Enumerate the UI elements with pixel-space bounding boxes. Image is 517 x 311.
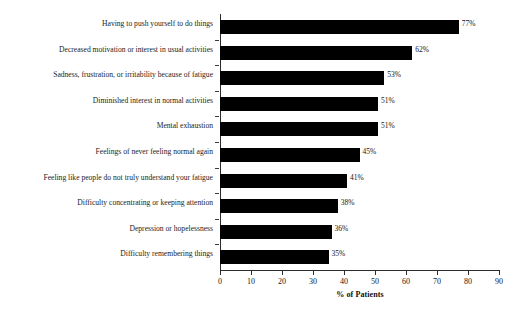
horizontal-bar-chart: Having to push yourself to do thingsDecr… xyxy=(0,0,517,311)
bar-row: 51% xyxy=(220,116,500,142)
bar-row: 45% xyxy=(220,142,500,168)
bar xyxy=(220,46,412,60)
bar-value-label: 51% xyxy=(381,121,395,131)
bar-row: 41% xyxy=(220,168,500,194)
category-label: Decreased motivation or interest in usua… xyxy=(0,45,213,55)
bar-row: 53% xyxy=(220,65,500,91)
value-axis-tick xyxy=(499,271,500,275)
category-axis-tick xyxy=(215,91,219,92)
bar xyxy=(220,225,332,239)
value-axis-tick xyxy=(406,271,407,275)
category-axis-tick xyxy=(215,168,219,169)
category-label: Feelings of never feeling normal again xyxy=(0,147,213,157)
category-label: Difficulty concentrating or keeping atte… xyxy=(0,198,213,208)
value-axis-tick xyxy=(313,271,314,275)
plot-area: 77%62%53%51%51%45%41%38%36%35% xyxy=(220,14,500,270)
bar xyxy=(220,122,378,136)
category-axis-labels: Having to push yourself to do thingsDecr… xyxy=(0,14,217,270)
category-label: Difficulty remembering things xyxy=(0,249,213,259)
category-label: Feeling like people do not truly underst… xyxy=(0,173,213,183)
bar xyxy=(220,97,378,111)
value-axis-tick-label: 10 xyxy=(239,276,263,287)
category-label: Depression or hopelessness xyxy=(0,224,213,234)
bar-value-label: 38% xyxy=(341,198,355,208)
category-axis-tick xyxy=(215,65,219,66)
bar-row: 51% xyxy=(220,91,500,117)
category-axis-tick xyxy=(215,193,219,194)
bar-row: 62% xyxy=(220,40,500,66)
category-axis-tick xyxy=(215,219,219,220)
value-axis-tick-label: 30 xyxy=(301,276,325,287)
value-axis-title: % of Patients xyxy=(220,290,500,299)
value-axis-tick xyxy=(251,271,252,275)
value-axis-tick-label: 80 xyxy=(456,276,480,287)
bar-value-label: 77% xyxy=(462,19,476,29)
bar-row: 35% xyxy=(220,244,500,270)
bar xyxy=(220,20,459,34)
bar xyxy=(220,148,360,162)
value-axis-tick-label: 50 xyxy=(363,276,387,287)
category-axis-tick xyxy=(215,40,219,41)
category-axis-tick xyxy=(215,244,219,245)
value-axis-tick-label: 60 xyxy=(394,276,418,287)
category-axis-tick xyxy=(215,116,219,117)
bar-value-label: 36% xyxy=(335,224,349,234)
value-axis-tick xyxy=(468,271,469,275)
bar-row: 36% xyxy=(220,219,500,245)
bar xyxy=(220,199,338,213)
category-label: Having to push yourself to do things xyxy=(0,19,213,29)
bar xyxy=(220,174,347,188)
value-axis-tick xyxy=(344,271,345,275)
category-axis-tick xyxy=(215,142,219,143)
bar-row: 38% xyxy=(220,193,500,219)
category-label: Sadness, frustration, or irritability be… xyxy=(0,70,213,80)
bar xyxy=(220,71,384,85)
bar-value-label: 41% xyxy=(350,173,364,183)
category-label: Mental exhaustion xyxy=(0,121,213,131)
value-axis-tick xyxy=(220,271,221,275)
value-axis-tick-label: 0 xyxy=(208,276,232,287)
bar-value-label: 35% xyxy=(332,249,346,259)
value-axis-tick-label: 40 xyxy=(332,276,356,287)
bar-row: 77% xyxy=(220,14,500,40)
category-label: Diminished interest in normal activities xyxy=(0,96,213,106)
value-axis-tick xyxy=(375,271,376,275)
bar-value-label: 62% xyxy=(415,45,429,55)
value-axis-tick xyxy=(437,271,438,275)
value-axis-tick-label: 90 xyxy=(487,276,511,287)
value-axis-tick-label: 20 xyxy=(270,276,294,287)
value-axis-tick-label: 70 xyxy=(425,276,449,287)
bar-value-label: 45% xyxy=(363,147,377,157)
bar-value-label: 51% xyxy=(381,96,395,106)
bar-value-label: 53% xyxy=(387,70,401,80)
value-axis-line xyxy=(220,270,500,271)
bar xyxy=(220,250,329,264)
value-axis-tick xyxy=(282,271,283,275)
